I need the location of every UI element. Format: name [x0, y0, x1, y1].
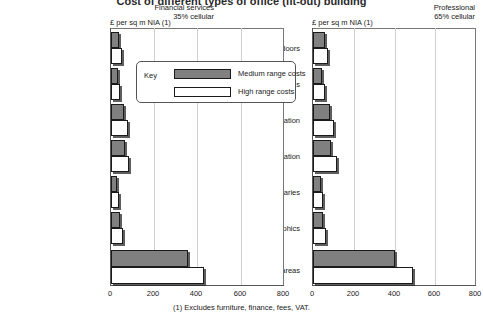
chart-footnote: (1) Excludes furniture, finance, fees, V…: [0, 303, 483, 312]
xtick-400-left: 400: [190, 289, 203, 298]
xtick-200-right: 200: [347, 289, 360, 298]
bar-high-total-general-areas-left: [111, 267, 204, 284]
bar-high-mechanical-installation-left: [111, 120, 128, 136]
plot-area-right: [312, 28, 476, 286]
bar-medium-adapt-existing-finishes-left: [111, 68, 118, 84]
bar-medium-total-general-areas-left: [111, 250, 188, 267]
legend-key-label: Key: [144, 71, 157, 80]
plot-right-rule-right: [475, 28, 476, 285]
panel-financial-services: Financial services 35% cellular £ per sq…: [0, 0, 300, 317]
bar-high-electrical-installation-left: [111, 156, 129, 172]
bar-medium-adapt-existing-finishes-right: [313, 68, 322, 84]
gridline-200-right: [354, 28, 355, 285]
bar-high-adapt-existing-finishes-left: [111, 84, 120, 100]
bar-medium-mechanical-installation-right: [313, 104, 330, 120]
panel-professional: Professional 65% cellular £ per sq m NIA…: [300, 0, 483, 317]
chart-figure: Cost of different types of office (fit-o…: [0, 0, 483, 317]
bar-medium-electrical-installation-right: [313, 140, 331, 156]
bar-medium-mechanical-installation-left: [111, 104, 124, 120]
bar-high-partitions-and-doors-right: [313, 48, 328, 64]
bar-high-electrical-installation-right: [313, 156, 337, 172]
gridline-400-right: [395, 28, 396, 285]
legend-label-medium-range-costs: Medium range costs: [238, 69, 306, 78]
legend-swatch-high-range-costs: [174, 87, 231, 97]
bar-high-preliminaries-left: [111, 192, 119, 208]
bar-high-preliminaries-right: [313, 192, 323, 208]
chart-legend: Key Medium range costs High range costs: [136, 61, 296, 103]
xtick-800-left: 800: [277, 289, 290, 298]
xtick-800-right: 800: [469, 289, 482, 298]
bar-high-total-general-areas-right: [313, 267, 413, 284]
gridline-600-right: [435, 28, 436, 285]
panel-title-line2: 65% cellular: [434, 13, 475, 22]
bar-medium-preliminaries-left: [111, 176, 117, 192]
bar-high-fixtures-fittings-and-graphics-right: [313, 228, 326, 244]
xtick-200-left: 200: [147, 289, 160, 298]
legend-label-high-range-costs: High range costs: [238, 87, 294, 96]
bar-medium-partitions-and-doors-left: [111, 32, 119, 48]
xtick-600-right: 600: [428, 289, 441, 298]
xtick-0-right: 0: [310, 289, 314, 298]
legend-swatch-medium-range-costs: [174, 69, 231, 79]
bar-high-partitions-and-doors-left: [111, 48, 122, 64]
bar-medium-electrical-installation-left: [111, 140, 125, 156]
bar-medium-total-general-areas-right: [313, 250, 395, 267]
xtick-0-left: 0: [108, 289, 112, 298]
bar-medium-fixtures-fittings-and-graphics-right: [313, 212, 323, 228]
bar-high-fixtures-fittings-and-graphics-left: [111, 228, 123, 244]
bar-medium-partitions-and-doors-right: [313, 32, 325, 48]
unit-label-right: £ per sq m NIA (1): [312, 18, 373, 27]
bar-medium-preliminaries-right: [313, 176, 321, 192]
unit-label-left: £ per sq m NIA (1): [110, 18, 171, 27]
bar-high-mechanical-installation-right: [313, 120, 334, 136]
bar-medium-fixtures-fittings-and-graphics-left: [111, 212, 120, 228]
xtick-400-right: 400: [388, 289, 401, 298]
panel-title-professional: Professional 65% cellular: [434, 4, 475, 21]
bar-high-adapt-existing-finishes-right: [313, 84, 325, 100]
xtick-600-left: 600: [234, 289, 247, 298]
